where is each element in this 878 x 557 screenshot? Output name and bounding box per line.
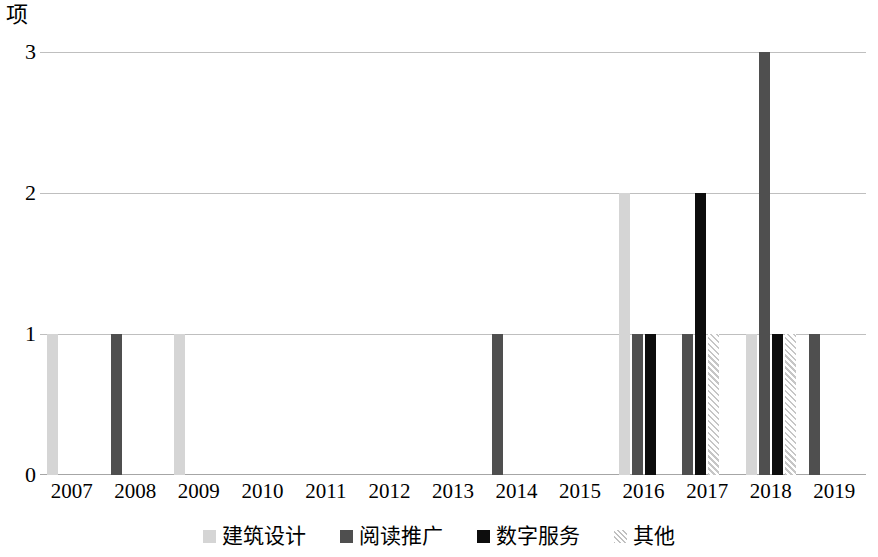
x-tick-label: 2012 xyxy=(358,478,422,504)
y-axis-unit-label: 项 xyxy=(6,2,28,28)
legend-swatch-digital-service xyxy=(477,530,490,543)
x-tick-label: 2011 xyxy=(294,478,358,504)
y-tick-label: 2 xyxy=(2,182,36,204)
legend-label: 阅读推广 xyxy=(359,524,443,548)
bar xyxy=(695,193,706,475)
x-tick-label: 2013 xyxy=(421,478,485,504)
legend-item[interactable]: 建筑设计 xyxy=(203,524,306,548)
bar xyxy=(174,334,185,475)
x-tick-label: 2015 xyxy=(548,478,612,504)
x-tick-label: 2008 xyxy=(104,478,168,504)
x-tick-label: 2017 xyxy=(675,478,739,504)
bar xyxy=(772,334,783,475)
legend-label: 其他 xyxy=(633,524,675,548)
x-tick-label: 2010 xyxy=(231,478,295,504)
bar xyxy=(619,193,630,475)
bar xyxy=(632,334,643,475)
legend-item[interactable]: 数字服务 xyxy=(477,524,580,548)
bar xyxy=(809,334,820,475)
legend-label: 数字服务 xyxy=(496,524,580,548)
gridline-3 xyxy=(40,52,866,53)
legend-swatch-reading-promotion xyxy=(340,530,353,543)
bar xyxy=(746,334,757,475)
bar xyxy=(645,334,656,475)
bar xyxy=(47,334,58,475)
bar xyxy=(492,334,503,475)
x-tick-label: 2016 xyxy=(612,478,676,504)
gridline-2 xyxy=(40,193,866,194)
y-tick-label: 3 xyxy=(2,41,36,63)
x-tick-label: 2009 xyxy=(167,478,231,504)
chart-legend: 建筑设计阅读推广数字服务其他 xyxy=(0,516,878,556)
bar-chart: 项 0123 年 2007200820092010201120122013201… xyxy=(0,0,878,557)
legend-item[interactable]: 阅读推广 xyxy=(340,524,443,548)
x-tick-label: 2007 xyxy=(40,478,104,504)
y-tick-label: 0 xyxy=(2,464,36,486)
legend-swatch-other xyxy=(614,530,627,543)
bar xyxy=(682,334,693,475)
x-tick-label: 2019 xyxy=(802,478,866,504)
x-axis-tick-labels: 年 20072008200920102011201220132014201520… xyxy=(40,478,866,508)
bar xyxy=(708,334,719,475)
legend-item[interactable]: 其他 xyxy=(614,524,675,548)
legend-swatch-architecture-design xyxy=(203,530,216,543)
y-axis-tick-labels: 0123 xyxy=(0,52,36,475)
x-tick-label: 2018 xyxy=(739,478,803,504)
x-tick-label: 2014 xyxy=(485,478,549,504)
bar xyxy=(111,334,122,475)
bar xyxy=(785,334,796,475)
bar xyxy=(759,52,770,475)
legend-label: 建筑设计 xyxy=(222,524,306,548)
plot-area xyxy=(40,52,866,475)
y-tick-label: 1 xyxy=(2,323,36,345)
gridline-1 xyxy=(40,334,866,335)
gridline-0 xyxy=(40,474,866,475)
